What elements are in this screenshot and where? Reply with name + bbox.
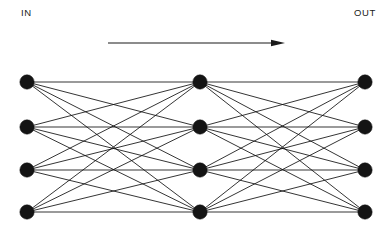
node-hidden-layer-1 [193, 120, 207, 134]
flow-arrow-head [271, 40, 285, 46]
node-hidden-layer-3 [193, 205, 207, 219]
node-output-layer-3 [358, 205, 372, 219]
node-output-layer-1 [358, 120, 372, 134]
node-hidden-layer-0 [193, 75, 207, 89]
edges-group [32, 82, 360, 212]
node-input-layer-1 [20, 120, 34, 134]
node-hidden-layer-2 [193, 163, 207, 177]
node-output-layer-0 [358, 75, 372, 89]
node-input-layer-0 [20, 75, 34, 89]
neural-network-diagram: IN OUT [0, 0, 392, 235]
node-input-layer-3 [20, 205, 34, 219]
network-graphic [0, 0, 392, 235]
node-input-layer-2 [20, 163, 34, 177]
flow-direction-arrow [108, 40, 285, 46]
node-output-layer-2 [358, 163, 372, 177]
